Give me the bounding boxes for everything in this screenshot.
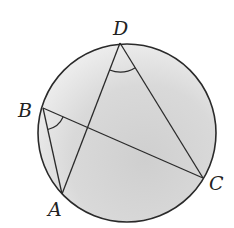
label-C: C	[209, 172, 224, 194]
label-A: A	[46, 198, 62, 220]
label-D: D	[112, 17, 128, 39]
inscribed-angle-diagram: D B A C	[0, 0, 234, 228]
label-B: B	[17, 99, 32, 121]
